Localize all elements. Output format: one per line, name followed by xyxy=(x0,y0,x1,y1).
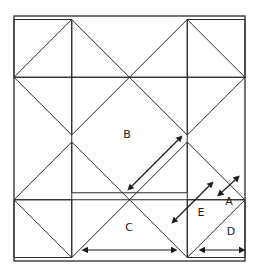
diamond-3-edge-tr xyxy=(72,142,130,200)
diamond-4-edge-tl xyxy=(130,142,188,200)
diamond-2-edge-tr xyxy=(187,20,245,78)
dimension-arrow-B xyxy=(132,140,178,186)
diamond-2-edge-tl xyxy=(130,20,188,78)
diamond-3-edge-br xyxy=(72,200,130,258)
diamond-4-edge-br xyxy=(187,200,245,258)
geometric-diagram: BCEAD xyxy=(0,0,260,280)
diamond-3-edge-bl xyxy=(14,200,72,258)
dimension-label-B: B xyxy=(123,128,131,141)
dimension-labels: BCEAD xyxy=(123,128,235,238)
dimension-label-E: E xyxy=(198,206,205,219)
diamond-1-edge-bl xyxy=(14,77,72,135)
dimension-label-C: C xyxy=(125,221,133,234)
diamond-1-edge-tr xyxy=(72,20,130,78)
diamond-1-edge-br xyxy=(72,77,130,135)
diagram-canvas: BCEAD xyxy=(0,0,260,280)
dimension-arrow-A xyxy=(222,180,235,192)
diamond-2-edge-bl xyxy=(130,77,188,135)
diamond-4-edge-bl xyxy=(130,200,188,258)
diamond-2-edge-br xyxy=(187,77,245,135)
dimension-label-D: D xyxy=(227,225,235,238)
diamond-3-edge-tl xyxy=(14,142,72,200)
diamond-1-edge-tl xyxy=(14,20,72,78)
dimension-label-A: A xyxy=(225,195,233,208)
diamond-4-edge-tr xyxy=(187,142,245,200)
